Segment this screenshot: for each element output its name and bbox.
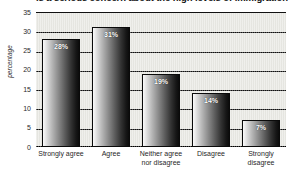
- y-axis-tick: 5: [3, 124, 31, 131]
- bar-value-label: 28%: [43, 43, 79, 51]
- bar-chart-figure: is a serious concern about the high leve…: [0, 0, 293, 185]
- x-axis-tick-line: Strongly: [236, 150, 286, 159]
- bar[interactable]: 19%: [142, 74, 180, 147]
- y-axis-tick: 10: [3, 105, 31, 112]
- x-axis-tick: Strongly agree: [36, 150, 86, 159]
- bar-slot: 7%: [236, 13, 286, 147]
- bar-value-label: 14%: [193, 97, 229, 105]
- y-axis-tick: 30: [3, 28, 31, 35]
- x-axis-tick-line: disagree: [236, 159, 286, 168]
- chart-title: is a serious concern about the high leve…: [36, 0, 288, 3]
- x-axis-tick: Neither agreenor disagree: [136, 150, 186, 167]
- bar-series: 28%31%19%14%7%: [36, 13, 286, 147]
- bar-value-label: 19%: [143, 78, 179, 86]
- x-axis-tick-labels: Strongly agreeAgreeNeither agreenor disa…: [36, 150, 286, 184]
- x-axis-tick: Stronglydisagree: [236, 150, 286, 167]
- bar[interactable]: 31%: [92, 27, 130, 147]
- bar-value-label: 31%: [93, 31, 129, 39]
- bar-value-label: 7%: [243, 124, 279, 132]
- bar[interactable]: 7%: [242, 120, 280, 147]
- x-axis-tick-line: Strongly agree: [36, 150, 86, 159]
- x-axis-tick: Agree: [86, 150, 136, 159]
- y-axis-tick: 25: [3, 47, 31, 54]
- bar-slot: 28%: [36, 13, 86, 147]
- x-axis-tick-line: nor disagree: [136, 159, 186, 168]
- x-axis-tick: Disagree: [186, 150, 236, 159]
- y-axis-tick-labels: 05101520253035: [0, 0, 36, 185]
- plot-area: 28%31%19%14%7%: [36, 12, 286, 147]
- y-axis-tick: 35: [3, 9, 31, 16]
- x-axis-tick-line: Disagree: [186, 150, 236, 159]
- y-axis-tick: 20: [3, 66, 31, 73]
- bar-slot: 14%: [186, 13, 236, 147]
- x-axis-tick-line: Neither agree: [136, 150, 186, 159]
- x-axis-tick-line: Agree: [86, 150, 136, 159]
- bar[interactable]: 28%: [42, 39, 80, 147]
- bar[interactable]: 14%: [192, 93, 230, 147]
- bar-slot: 31%: [86, 13, 136, 147]
- bar-slot: 19%: [136, 13, 186, 147]
- y-axis-tick: 0: [3, 144, 31, 151]
- y-axis-tick: 15: [3, 86, 31, 93]
